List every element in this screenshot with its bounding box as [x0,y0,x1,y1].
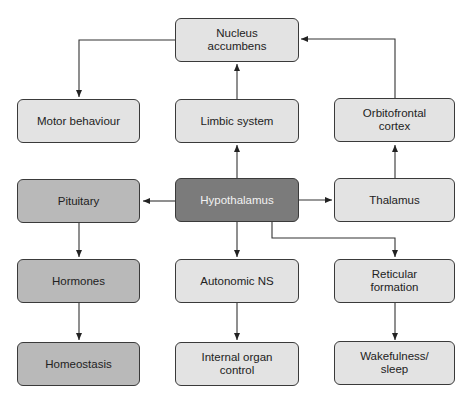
node-autonomic-ns: Autonomic NS [175,259,299,303]
node-nucleus-accumbens: Nucleus accumbens [175,18,299,62]
node-limbic-system: Limbic system [175,99,299,143]
edge-orbitofrontal-nucleus [301,39,395,99]
node-motor-behaviour: Motor behaviour [17,99,140,143]
node-reticular-formation: Reticular formation [334,259,455,303]
node-pituitary: Pituitary [17,179,140,223]
node-hormones: Hormones [17,259,140,303]
node-thalamus: Thalamus [334,178,455,222]
node-internal-organ-control: Internal organ control [175,342,299,386]
node-hypothalamus: Hypothalamus [175,178,299,222]
hypothalamus-diagram: Nucleus accumbens Motor behaviour Limbic… [0,0,470,397]
node-orbitofrontal-cortex: Orbitofrontal cortex [334,98,455,142]
node-homeostasis: Homeostasis [17,342,140,386]
node-wakefulness-sleep: Wakefulness/ sleep [334,341,455,385]
edge-hypothalamus-reticular [272,222,395,257]
edge-nucleus-motor [79,40,175,97]
